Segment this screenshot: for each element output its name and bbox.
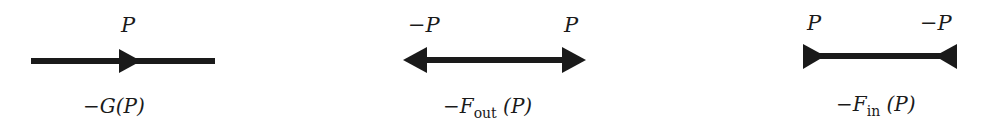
momentum-label-right: P [564,15,578,36]
momentum-label-left: P [807,13,821,34]
caption-g: −G(P) [83,96,145,116]
caption-symbol: F [853,92,867,116]
caption-prefix: − [836,92,853,116]
propagator-f-out [403,47,586,73]
caption-subscript: out [474,105,497,121]
arrow-inward-right-icon [935,44,957,69]
caption-prefix: − [83,94,100,118]
caption-symbol: G [100,94,116,118]
momentum-label-left: −P [408,15,440,36]
caption-subscript: in [867,103,881,119]
caption-symbol: F [460,94,474,118]
arrow-right-icon [119,49,141,73]
caption-argument: (P) [887,92,916,116]
caption-argument: (P) [116,94,145,118]
caption-f-out: −Fout (P) [443,96,532,116]
caption-argument: (P) [503,94,532,118]
propagator-f-in [803,44,957,69]
arrow-inward-left-icon [803,44,825,69]
propagator-g [31,49,215,73]
caption-f-in: −Fin (P) [836,94,916,114]
momentum-label: P [121,15,135,36]
caption-prefix: − [443,94,460,118]
momentum-label-right: −P [920,13,952,34]
arrow-left-icon [403,47,427,73]
arrow-right-icon [562,47,586,73]
